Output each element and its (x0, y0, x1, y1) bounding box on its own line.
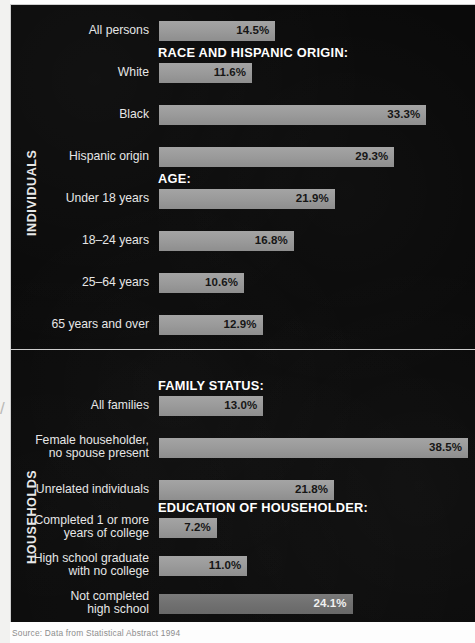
bar-label-18-24: 18–24 years (11, 234, 149, 247)
bar-row-white: White11.6% (11, 63, 475, 83)
bar-row-college: Completed 1 or more years of college7.2% (11, 518, 475, 538)
section-header-family: FAMILY STATUS: (158, 378, 264, 393)
bar-label-65-over: 65 years and over (11, 318, 149, 331)
bar-unrelated[interactable]: 21.8% (159, 480, 334, 500)
bar-value-18-24: 16.8% (255, 234, 288, 246)
bar-not-hs[interactable]: 24.1% (159, 594, 353, 614)
bar-value-not-hs: 24.1% (313, 597, 346, 609)
bar-row-hispanic-origin: Hispanic origin29.3% (11, 147, 475, 167)
bar-row-65-over: 65 years and over12.9% (11, 315, 475, 335)
bar-label-female-householder: Female householder, no spouse present (11, 434, 149, 461)
bar-label-under-18: Under 18 years (11, 192, 149, 205)
bar-label-college: Completed 1 or more years of college (11, 514, 149, 541)
bar-value-65-over: 12.9% (223, 318, 256, 330)
section-header-age: AGE: (158, 171, 191, 186)
bar-value-hs-grad: 11.0% (209, 559, 241, 571)
bar-label-hispanic-origin: Hispanic origin (11, 150, 149, 163)
figure-page: / INDIVIDUALS HOUSEHOLDS RACE AND HISPAN… (0, 0, 475, 643)
section-header-race: RACE AND HISPANIC ORIGIN: (158, 45, 348, 60)
bar-white[interactable]: 11.6% (159, 63, 252, 83)
bar-college[interactable]: 7.2% (159, 518, 217, 538)
bar-row-18-24: 18–24 years16.8% (11, 231, 475, 251)
section-divider (11, 349, 475, 350)
bar-row-unrelated: Unrelated individuals21.8% (11, 480, 475, 500)
bar-row-all-persons: All persons14.5% (11, 21, 475, 41)
bar-all-persons[interactable]: 14.5% (159, 21, 275, 41)
bar-label-25-64: 25–64 years (11, 276, 149, 289)
bar-label-all-persons: All persons (11, 24, 149, 37)
section-header-education: EDUCATION OF HOUSEHOLDER: (158, 500, 368, 515)
bar-black[interactable]: 33.3% (159, 105, 426, 125)
bar-value-under-18: 21.9% (296, 192, 329, 204)
bar-label-white: White (11, 66, 149, 79)
scan-margin (0, 0, 10, 643)
bar-hs-grad[interactable]: 11.0% (159, 556, 247, 576)
bar-label-unrelated: Unrelated individuals (11, 483, 149, 496)
bar-row-female-householder: Female householder, no spouse present38.… (11, 438, 475, 458)
bar-female-householder[interactable]: 38.5% (159, 438, 468, 458)
bar-label-all-families: All families (11, 399, 149, 412)
bar-label-hs-grad: High school graduate with no college (11, 552, 149, 579)
bar-value-all-families: 13.0% (224, 399, 257, 411)
bar-value-hispanic-origin: 29.3% (355, 150, 388, 162)
bar-value-all-persons: 14.5% (236, 24, 269, 36)
source-caption: Source: Data from Statistical Abstract 1… (12, 628, 180, 638)
bar-chart-panel: INDIVIDUALS HOUSEHOLDS RACE AND HISPANIC… (10, 4, 475, 622)
bar-row-hs-grad: High school graduate with no college11.0… (11, 556, 475, 576)
bar-all-families[interactable]: 13.0% (159, 396, 263, 416)
bar-hispanic-origin[interactable]: 29.3% (159, 147, 394, 167)
bar-25-64[interactable]: 10.6% (159, 273, 244, 293)
bar-row-not-hs: Not completed high school24.1% (11, 594, 475, 614)
bar-value-college: 7.2% (184, 521, 211, 533)
bar-value-unrelated: 21.8% (295, 483, 328, 495)
bar-65-over[interactable]: 12.9% (159, 315, 263, 335)
bar-label-not-hs: Not completed high school (11, 590, 149, 617)
bar-18-24[interactable]: 16.8% (159, 231, 294, 251)
bar-value-black: 33.3% (387, 108, 420, 120)
bar-value-female-householder: 38.5% (429, 441, 462, 453)
bar-row-black: Black33.3% (11, 105, 475, 125)
bar-under-18[interactable]: 21.9% (159, 189, 335, 209)
bar-row-25-64: 25–64 years10.6% (11, 273, 475, 293)
bar-value-white: 11.6% (214, 66, 246, 78)
bar-label-black: Black (11, 108, 149, 121)
bar-row-under-18: Under 18 years21.9% (11, 189, 475, 209)
bar-value-25-64: 10.6% (205, 276, 238, 288)
bar-row-all-families: All families13.0% (11, 396, 475, 416)
